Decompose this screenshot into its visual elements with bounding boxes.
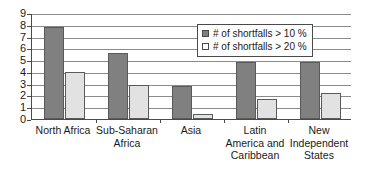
bar — [129, 85, 149, 119]
x-axis-category-label: Asia — [154, 124, 228, 137]
bar-group — [32, 14, 96, 119]
legend-label: # of shortfalls > 10 % — [213, 28, 307, 39]
x-axis-label-line: Latin — [218, 124, 292, 137]
y-tick-label: 9 — [10, 8, 26, 19]
bar — [44, 27, 64, 119]
x-axis-separator-tick — [288, 119, 289, 123]
y-tick-label: 1 — [10, 102, 26, 113]
x-axis-label-line: Sub-Saharan — [90, 124, 164, 137]
bar — [172, 86, 192, 119]
y-tick-label: 8 — [10, 20, 26, 31]
x-axis-label-line: Africa — [90, 137, 164, 150]
y-tick-label: 2 — [10, 90, 26, 101]
y-tick-label: 7 — [10, 32, 26, 43]
bar — [65, 72, 85, 119]
x-axis-label-line: North Africa — [26, 124, 100, 137]
x-axis-label-line: New — [282, 124, 356, 137]
x-axis-separator-tick — [224, 119, 225, 123]
bar — [108, 53, 128, 119]
x-axis-category-label: Sub-SaharanAfrica — [90, 124, 164, 149]
x-axis-labels: North AfricaSub-SaharanAfricaAsiaLatinAm… — [31, 124, 351, 179]
x-axis-separator-tick — [160, 119, 161, 123]
bar — [236, 62, 256, 119]
bar — [321, 93, 341, 119]
legend-entry: # of shortfalls > 10 % — [202, 27, 307, 40]
y-axis-labels: 9876543210 — [6, 0, 26, 179]
y-tick-label: 5 — [10, 55, 26, 66]
x-axis-separator-tick — [96, 119, 97, 123]
x-axis-label-line: Asia — [154, 124, 228, 137]
x-axis-label-line: Caribbean — [218, 149, 292, 162]
y-tick-label: 0 — [10, 114, 26, 125]
y-tick-label: 6 — [10, 43, 26, 54]
y-tick-label: 3 — [10, 79, 26, 90]
x-axis-label-line: America and — [218, 137, 292, 150]
chart-legend: # of shortfalls > 10 %# of shortfalls > … — [197, 24, 313, 57]
bar — [193, 114, 213, 119]
bar — [257, 99, 277, 119]
y-tick-label: 4 — [10, 67, 26, 78]
filled-dark-square-icon — [202, 30, 209, 37]
legend-label: # of shortfalls > 20 % — [213, 41, 307, 52]
bar-group — [96, 14, 160, 119]
legend-entry: # of shortfalls > 20 % — [202, 40, 307, 53]
x-axis-label-line: States — [282, 149, 356, 162]
x-axis-label-line: Independent — [282, 137, 356, 150]
bar — [300, 62, 320, 119]
x-axis-category-label: North Africa — [26, 124, 100, 137]
bar-chart: 9876543210 # of shortfalls > 10 %# of sh… — [0, 0, 367, 179]
x-axis-category-label: NewIndependentStates — [282, 124, 356, 162]
y-tick-mark — [27, 120, 31, 121]
x-axis-category-label: LatinAmerica andCaribbean — [218, 124, 292, 162]
outlined-light-square-icon — [202, 43, 209, 50]
